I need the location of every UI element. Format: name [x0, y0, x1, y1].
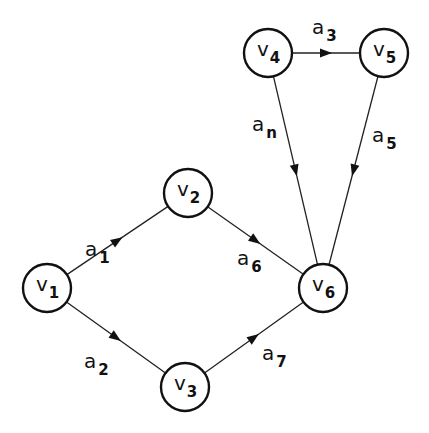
nodes-layer: v1v2v3v4v5v6	[23, 29, 408, 411]
arrowhead-icon	[110, 237, 122, 247]
node-v1: v1	[23, 264, 71, 312]
edges-layer	[67, 49, 378, 374]
node-v2: v2	[164, 169, 212, 217]
arrowhead-icon	[248, 233, 260, 244]
edge-a1	[67, 206, 168, 274]
edge-label-a3: a3	[312, 15, 337, 45]
edge-an	[273, 76, 317, 264]
edge-label-an: an	[252, 112, 277, 142]
arrowhead-icon	[351, 164, 360, 177]
edge-label-a5: a5	[372, 123, 397, 153]
arrowhead-icon	[320, 49, 332, 58]
arrowhead-icon	[109, 330, 121, 341]
edge-labels-layer: a1a2a3ana5a6a7	[84, 15, 397, 379]
arrowhead-icon	[290, 164, 299, 177]
arrowhead-icon	[247, 334, 259, 345]
node-v4: v4	[244, 29, 292, 77]
edge-label-a2: a2	[84, 349, 109, 379]
edge-label-a1: a1	[85, 237, 110, 267]
node-v6: v6	[299, 264, 347, 312]
edge-label-a6: a6	[237, 246, 262, 276]
edge-a2	[67, 302, 166, 373]
graph-canvas: v1v2v3v4v5v6 a1a2a3ana5a6a7	[0, 0, 429, 433]
node-v5: v5	[360, 29, 408, 77]
edge-a5	[329, 76, 378, 265]
node-v3: v3	[161, 363, 209, 411]
edge-label-a7: a7	[262, 341, 287, 371]
edge-a7	[205, 302, 304, 373]
edge-a3	[292, 49, 360, 58]
